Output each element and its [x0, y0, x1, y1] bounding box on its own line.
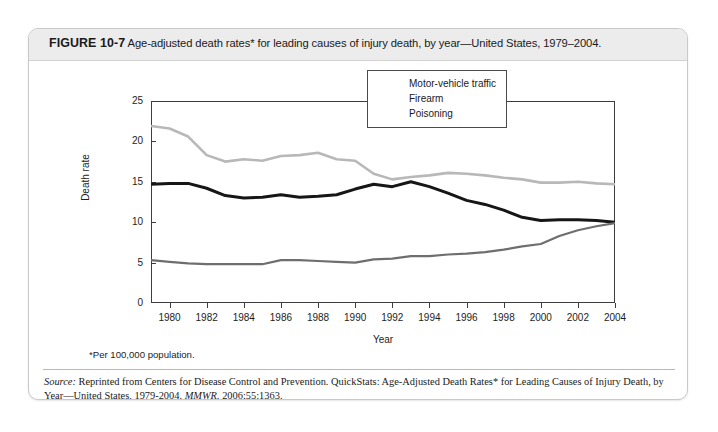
x-tick-mark — [244, 303, 245, 308]
x-axis-title: Year — [151, 334, 615, 345]
legend-label-firearm: Firearm — [409, 93, 443, 104]
source-tail: 2006;55:1363. — [220, 390, 283, 400]
y-tick-label: 0 — [117, 297, 143, 308]
x-tick-label: 1996 — [447, 312, 487, 323]
x-tick-mark — [355, 303, 356, 308]
x-tick-label: 2000 — [521, 312, 561, 323]
x-tick-label: 1998 — [484, 312, 524, 323]
figure-footnote: *Per 100,000 population. — [89, 349, 195, 360]
x-tick-mark — [504, 303, 505, 308]
source-body: Reprinted from Centers for Disease Contr… — [44, 376, 664, 400]
chart-canvas: Death rate 0510152025 198019821984198619… — [29, 62, 688, 369]
x-tick-mark — [467, 303, 468, 308]
x-tick-label: 1986 — [261, 312, 301, 323]
figure-source: Source: Reprinted from Centers for Disea… — [44, 375, 676, 400]
figure-title-band: FIGURE 10-7 Age-adjusted death rates* fo… — [29, 29, 687, 61]
x-tick-label: 1990 — [335, 312, 375, 323]
x-tick-mark — [578, 303, 579, 308]
x-tick-label: 1980 — [150, 312, 190, 323]
series-line-poisoning — [151, 223, 615, 264]
x-tick-mark — [541, 303, 542, 308]
x-tick-label: 1984 — [224, 312, 264, 323]
x-tick-mark — [429, 303, 430, 308]
x-tick-label: 2004 — [595, 312, 635, 323]
y-tick-label: 20 — [117, 135, 143, 146]
figure-caption: Age-adjusted death rates* for leading ca… — [128, 37, 602, 49]
y-tick-label: 5 — [117, 257, 143, 268]
x-tick-label: 1982 — [187, 312, 227, 323]
chart-legend: Motor-vehicle traffic Firearm Poisoning — [367, 70, 507, 128]
legend-item-firearm: Firearm — [376, 91, 496, 106]
figure-title: FIGURE 10-7 Age-adjusted death rates* fo… — [49, 36, 601, 50]
y-tick-label: 25 — [117, 95, 143, 106]
series-line-firearm — [151, 182, 615, 222]
figure-card: FIGURE 10-7 Age-adjusted death rates* fo… — [28, 28, 688, 400]
source-divider — [43, 369, 675, 370]
x-tick-label: 1988 — [298, 312, 338, 323]
x-tick-label: 1994 — [409, 312, 449, 323]
y-tick-label: 15 — [117, 176, 143, 187]
x-tick-mark — [615, 303, 616, 308]
source-label: Source: — [44, 376, 76, 387]
x-tick-mark — [281, 303, 282, 308]
y-tick-label: 10 — [117, 216, 143, 227]
x-tick-label: 2002 — [558, 312, 598, 323]
y-axis-title: Death rate — [80, 118, 91, 238]
legend-label-poisoning: Poisoning — [409, 108, 453, 119]
figure-number: FIGURE 10-7 — [49, 36, 125, 50]
x-tick-mark — [170, 303, 171, 308]
legend-item-motor-vehicle-traffic: Motor-vehicle traffic — [376, 76, 496, 91]
chart-series-layer — [151, 101, 615, 303]
source-journal: MMWR. — [185, 390, 220, 400]
legend-label-motor-vehicle-traffic: Motor-vehicle traffic — [409, 78, 496, 89]
series-line-motor-vehicle-traffic — [151, 126, 615, 184]
x-tick-mark — [207, 303, 208, 308]
x-tick-mark — [392, 303, 393, 308]
x-tick-label: 1992 — [372, 312, 412, 323]
legend-item-poisoning: Poisoning — [376, 106, 496, 121]
x-tick-mark — [318, 303, 319, 308]
